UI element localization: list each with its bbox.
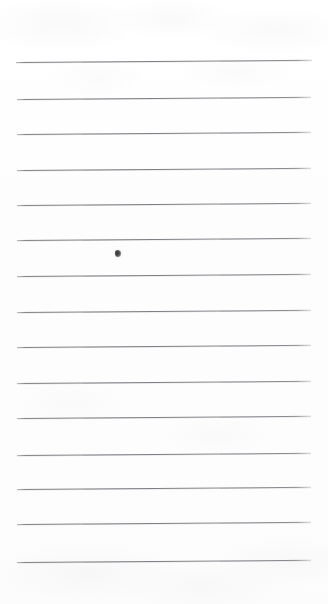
ruled-line: [17, 381, 311, 384]
ruled-line: [16, 60, 312, 63]
ink-speck: [115, 250, 121, 257]
ruled-line: [17, 132, 311, 135]
ruled-line: [17, 453, 311, 456]
ruled-line: [17, 238, 311, 241]
ruled-line: [17, 203, 311, 206]
ruled-line: [17, 487, 311, 490]
ruled-line: [17, 274, 311, 277]
ruled-line: [17, 310, 311, 313]
ruled-line: [17, 345, 311, 348]
ruled-line: [17, 560, 311, 563]
ruled-line: [17, 168, 311, 171]
ruled-line: [17, 97, 311, 100]
paper-texture: [0, 0, 328, 604]
ruled-line: [17, 522, 311, 525]
ruled-line: [17, 416, 311, 419]
scanned-page: [0, 0, 328, 604]
